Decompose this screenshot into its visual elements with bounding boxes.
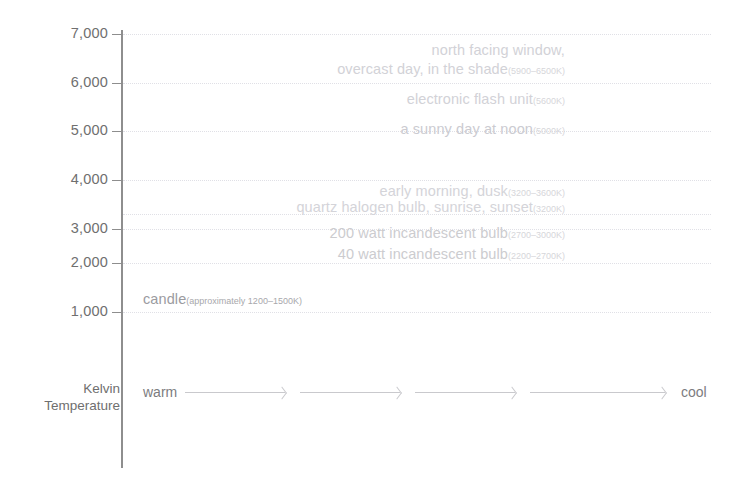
label-quartz-halogen-bulb-kelvin: (3200K) [533,204,565,214]
label-north-facing-window-line1: north facing window, [432,42,565,58]
label-early-morning-dusk-text: early morning, dusk [380,183,508,199]
gridline-1000 [123,312,711,313]
tick-1000 [112,312,121,313]
label-40-watt-incandescent-bulb: 40 watt incandescent bulb(2200–2700K) [338,245,565,264]
label-sunny-day-at-noon-text: a sunny day at noon [400,121,533,137]
y-axis-title-line1: Kelvin [83,381,120,396]
label-200-watt-incandescent-bulb-kelvin: (2700–3000K) [508,230,565,240]
tick-3000 [112,229,121,230]
scale-arrow-2-icon [300,392,400,393]
tick-label-5000: 5,000 [40,123,108,138]
scale-arrow-4-icon [530,392,665,393]
tick-label-1000: 1,000 [40,304,108,319]
label-40-watt-incandescent-bulb-text: 40 watt incandescent bulb [338,246,508,262]
tick-label-7000: 7,000 [40,26,108,41]
tick-label-6000: 6,000 [40,75,108,90]
tick-label-4000: 4,000 [40,172,108,187]
tick-5000 [112,131,121,132]
color-temperature-chart: 7,000 6,000 5,000 4,000 3,000 2,000 1,00… [0,0,741,480]
tick-2000 [112,263,121,264]
tick-4000 [112,180,121,181]
label-north-facing-window: north facing window, overcast day, in th… [337,41,565,79]
label-candle-text: candle [143,291,186,307]
label-electronic-flash-unit-text: electronic flash unit [407,91,533,107]
y-axis-title-line2: Temperature [44,398,120,413]
y-axis-title: Kelvin Temperature [30,380,120,415]
warm-cool-scale: warm cool [123,381,713,403]
label-sunny-day-at-noon-kelvin: (5000K) [533,126,565,136]
label-early-morning-dusk-kelvin: (3200–3600K) [508,188,565,198]
label-electronic-flash-unit-kelvin: (5600K) [533,96,565,106]
gridline-7000 [123,34,711,35]
gridline-6000 [123,83,711,84]
label-candle-kelvin: (approximately 1200–1500K) [186,296,302,306]
label-200-watt-incandescent-bulb: 200 watt incandescent bulb(2700–3000K) [330,224,565,243]
label-40-watt-incandescent-bulb-kelvin: (2200–2700K) [508,251,565,261]
label-quartz-halogen-bulb: quartz halogen bulb, sunrise, sunset(320… [296,198,565,217]
scale-arrow-3-icon [415,392,515,393]
gridline-4000 [123,180,711,181]
label-200-watt-incandescent-bulb-text: 200 watt incandescent bulb [330,225,508,241]
scale-cool-label: cool [681,381,707,403]
label-electronic-flash-unit: electronic flash unit(5600K) [407,90,565,109]
tick-label-3000: 3,000 [40,221,108,236]
label-candle: candle(approximately 1200–1500K) [143,290,302,309]
scale-warm-label: warm [143,381,177,403]
tick-7000 [112,34,121,35]
scale-arrow-1-icon [185,392,285,393]
label-sunny-day-at-noon: a sunny day at noon(5000K) [400,120,565,139]
label-north-facing-window-kelvin: (5900–6500K) [508,66,565,76]
label-quartz-halogen-bulb-text: quartz halogen bulb, sunrise, sunset [296,199,533,215]
tick-6000 [112,83,121,84]
tick-label-2000: 2,000 [40,255,108,270]
label-north-facing-window-line2: overcast day, in the shade(5900–6500K) [337,60,565,79]
